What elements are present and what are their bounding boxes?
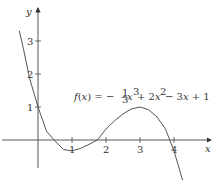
function-graph: 1 2 3 4 1 2 3 x y f(x) = − 1 3 x 3 + 2x … — [0, 0, 220, 182]
svg-text:f(x) = −: f(x) = − — [73, 91, 114, 102]
svg-text:+ 2x: + 2x — [137, 91, 161, 102]
x-axis-label: x — [205, 143, 211, 154]
y-tick-label-1: 1 — [27, 102, 33, 113]
x-tick-label-1: 1 — [69, 144, 75, 155]
function-curve — [19, 31, 182, 180]
function-equation: f(x) = − 1 3 x 3 + 2x 2 − 3x + 1 — [73, 86, 210, 105]
x-tick-label-2: 2 — [103, 144, 109, 155]
svg-text:− 3x + 1: − 3x + 1 — [165, 91, 210, 102]
y-tick-label-3: 3 — [27, 36, 33, 47]
y-axis-label: y — [25, 6, 32, 17]
x-tick-label-3: 3 — [137, 144, 143, 155]
